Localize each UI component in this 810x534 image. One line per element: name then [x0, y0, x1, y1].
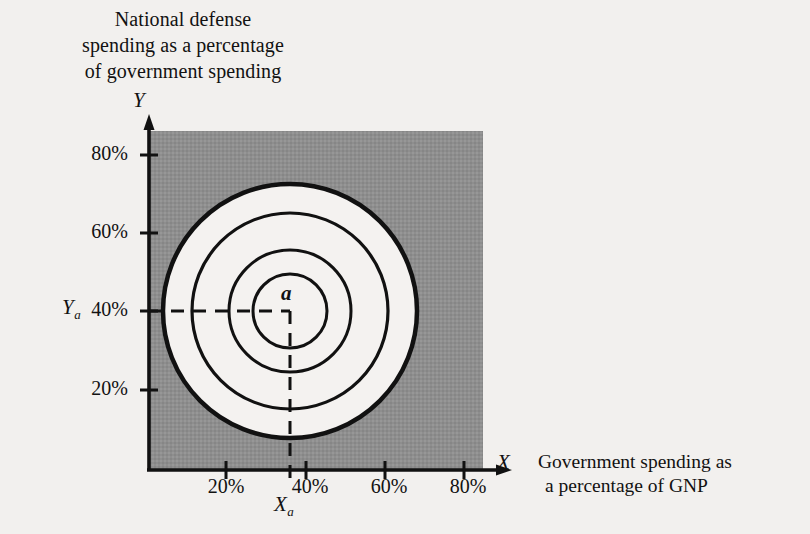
- ya-base: Y: [62, 295, 74, 319]
- figure-container: National defense spending as a percentag…: [0, 0, 810, 534]
- x-tick-label-80: 80%: [433, 475, 503, 498]
- x-tick-label-60: 60%: [354, 475, 424, 498]
- y-tick-label-80: 80%: [58, 142, 128, 165]
- ya-subscript: a: [74, 307, 81, 322]
- bliss-point-label: a: [281, 281, 292, 306]
- xa-subscript: a: [287, 504, 294, 519]
- x-axis-name: X: [497, 450, 510, 475]
- x-caption-line-1: Government spending as: [518, 450, 808, 474]
- x-axis-caption: Government spending as a percentage of G…: [518, 450, 808, 499]
- y-tick-label-60: 60%: [58, 220, 128, 243]
- xa-base: X: [274, 492, 287, 516]
- y-axis-arrowhead: [144, 114, 155, 130]
- x-tick-label-20: 20%: [191, 475, 261, 498]
- y-axis-name: Y: [133, 88, 145, 113]
- ya-marker-label: Ya: [62, 295, 80, 320]
- y-tick-label-20: 20%: [58, 377, 128, 400]
- xa-marker-label: Xa: [274, 492, 293, 517]
- x-caption-line-2: a percentage of GNP: [518, 474, 808, 498]
